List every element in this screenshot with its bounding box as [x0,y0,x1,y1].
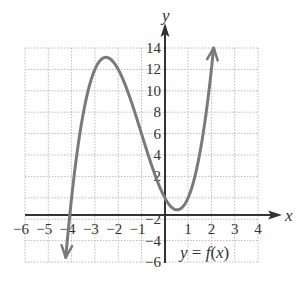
cubic-function-graph: −6−5−4−3−2−11234−6−4−22468101214 x y y =… [0,0,303,305]
y-tick-label: −2 [145,211,161,227]
x-axis-label: x [284,206,293,225]
y-tick-label: −4 [145,233,161,249]
y-tick-label: 6 [154,126,162,142]
y-tick-label: 12 [146,61,161,77]
x-tick-label: 3 [231,221,239,237]
x-tick-label: −1 [130,221,146,237]
y-tick-label: −6 [145,254,161,270]
x-tick-label: −3 [83,221,99,237]
y-tick-label: 14 [146,40,162,56]
x-tick-label: 2 [208,221,216,237]
function-label: y = f(x) [178,243,229,262]
y-tick-label: 10 [146,83,161,99]
y-tick-label: 4 [154,147,162,163]
x-tick-label: 1 [184,221,192,237]
y-tick-label: 8 [154,104,162,120]
x-tick-label: −6 [13,221,29,237]
x-tick-label: −2 [106,221,122,237]
x-tick-label: 4 [254,221,262,237]
x-tick-label: −5 [36,221,52,237]
y-axis-label: y [160,6,170,25]
